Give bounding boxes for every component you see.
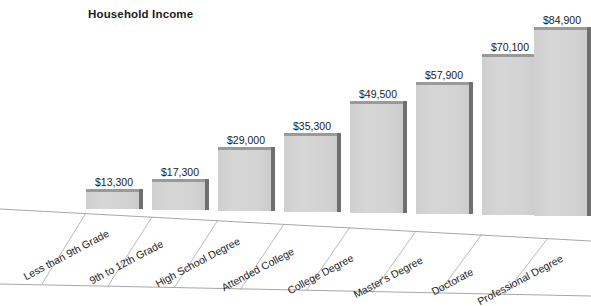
bar-side-face — [337, 133, 341, 212]
bar-value-label: $70,100 — [481, 41, 539, 53]
bar-value-label: $13,300 — [85, 176, 143, 188]
bar-value-label: $84,900 — [533, 14, 591, 26]
bar-top-edge — [482, 54, 539, 57]
bar-college-degree — [350, 101, 407, 213]
bar-value-label: $49,500 — [349, 88, 407, 100]
bar-top-edge — [218, 147, 275, 150]
bar-masters-degree — [416, 82, 473, 214]
bar-top-edge — [534, 27, 591, 30]
bar-top-edge — [86, 189, 143, 192]
bar-top-edge — [416, 82, 473, 85]
bar-top-edge — [152, 179, 209, 182]
bar-value-label: $35,300 — [283, 120, 341, 132]
bar-professional-degree — [534, 27, 591, 216]
category-label-band: Less than 9th Grade 9th to 12th Grade Hi… — [0, 205, 591, 306]
bar-doctorate — [482, 54, 539, 215]
bar-top-edge — [284, 133, 341, 136]
household-income-chart: Household Income $13,300 $17,300 $29,000… — [0, 0, 591, 306]
bar-value-label: $57,900 — [415, 69, 473, 81]
bar-value-label: $29,000 — [217, 134, 275, 146]
bar-side-face — [469, 82, 473, 214]
bar-high-school-degree — [218, 147, 275, 211]
bar-attended-college — [284, 133, 341, 212]
bar-value-label: $17,300 — [151, 166, 209, 178]
bar-side-face — [271, 147, 275, 211]
bar-side-face — [587, 27, 591, 216]
bar-side-face — [403, 101, 407, 213]
bar-top-edge — [350, 101, 407, 104]
